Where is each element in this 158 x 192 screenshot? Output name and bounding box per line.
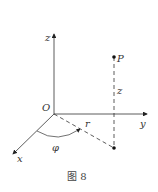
angle-label: φ (52, 142, 59, 153)
y-axis-label: y (139, 118, 146, 129)
figure-caption: 图 8 (67, 171, 87, 182)
point-p (112, 55, 116, 59)
point-p-label: P (116, 53, 124, 64)
x-axis-label: x (17, 153, 23, 164)
height-label: z (116, 85, 123, 96)
x-axis (13, 114, 54, 154)
angle-arc (37, 129, 80, 137)
projection-point (112, 146, 116, 150)
cylindrical-coordinates-diagram: z y x O P z r φ 图 8 (0, 0, 158, 192)
z-axis-label: z (44, 32, 51, 43)
radius-dashed-line (54, 114, 114, 148)
origin-label: O (42, 102, 50, 113)
radius-label: r (85, 118, 91, 129)
